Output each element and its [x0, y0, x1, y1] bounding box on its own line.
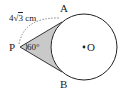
label-B: B	[60, 79, 67, 90]
label-length: 4√3 cm	[9, 14, 36, 23]
length-unit: cm	[23, 13, 36, 23]
label-A: A	[60, 3, 68, 14]
tangent-circle-diagram: A B P O 60° 4√3 cm	[0, 0, 127, 93]
label-P: P	[9, 42, 15, 53]
center-dot	[83, 46, 86, 49]
label-O: O	[87, 42, 95, 53]
label-angle: 60°	[27, 43, 40, 52]
